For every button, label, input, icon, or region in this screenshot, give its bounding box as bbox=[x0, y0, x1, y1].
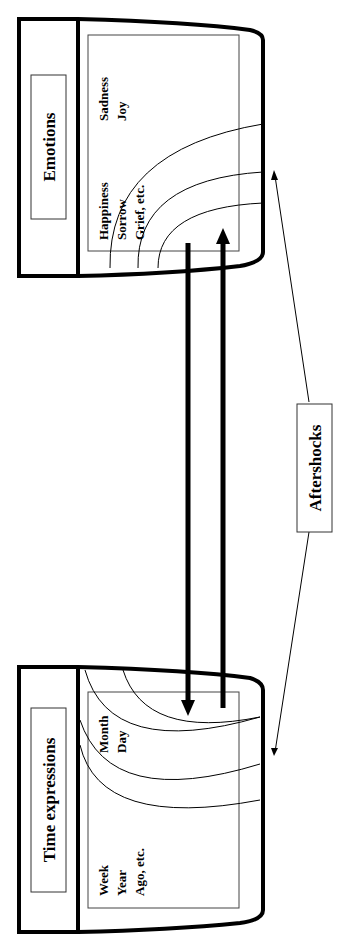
emotions-title: Emotions bbox=[40, 112, 59, 181]
thick-arrows bbox=[181, 228, 230, 716]
emotion-item: Grief, etc. bbox=[132, 185, 147, 240]
emotion-item: Sadness bbox=[96, 77, 111, 121]
time-item: Month bbox=[96, 715, 111, 753]
aftershocks-connector: Aftershocks bbox=[271, 170, 332, 756]
time-title: Time expressions bbox=[40, 737, 59, 862]
time-expressions-block: Time expressions Month Day Week Year Ago… bbox=[19, 667, 263, 932]
time-item: Year bbox=[114, 870, 129, 896]
time-item: Ago, etc. bbox=[132, 848, 147, 896]
aftershocks-line-bottom bbox=[275, 532, 309, 752]
aftershocks-label: Aftershocks bbox=[306, 424, 325, 511]
emotion-item: Happiness bbox=[96, 182, 111, 240]
aftershocks-arrowhead-bottom-icon bbox=[271, 748, 278, 756]
aftershocks-line-top bbox=[275, 176, 309, 402]
diagram-canvas: Emotions Happiness Sorrow Grief, etc. Sa… bbox=[0, 0, 352, 948]
time-item: Week bbox=[96, 864, 111, 896]
aftershocks-arrowhead-top-icon bbox=[271, 170, 278, 180]
emotion-item: Joy bbox=[114, 101, 129, 121]
emotion-item: Sorrow bbox=[114, 198, 129, 240]
time-item: Day bbox=[114, 730, 129, 753]
